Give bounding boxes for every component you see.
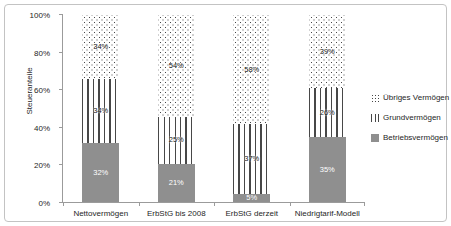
x-category-label: ErbStG derzeit <box>214 203 290 218</box>
legend-label: Übriges Vermögen <box>383 93 449 102</box>
y-axis-ticks: 0%20%40%60%80%100% <box>6 15 56 203</box>
legend: Übriges VermögenGrundvermögenBetriebsver… <box>371 93 449 142</box>
segment-value-label: 54% <box>158 62 195 70</box>
segment-value-label: 39% <box>309 48 346 56</box>
segment-dots: 58% <box>233 15 270 124</box>
x-tick-mark <box>63 203 64 206</box>
stacked-bar-3: 5%37%58% <box>233 15 270 203</box>
stacked-bar-2: 21%25%54% <box>158 15 195 203</box>
plot-area: 0%20%40%60%80%100% 32%34%34%21%25%54%5%3… <box>62 15 365 203</box>
x-tick-mark <box>290 203 291 206</box>
segment-vlines: 25% <box>158 117 195 164</box>
y-tick-label: 80% <box>34 48 50 57</box>
segment-value-label: 25% <box>158 136 195 144</box>
segment-dots: 34% <box>82 15 119 79</box>
x-category-label: Nettovermögen <box>63 203 139 218</box>
segment-dots: 54% <box>158 15 195 117</box>
segment-dots: 39% <box>309 15 346 88</box>
y-tick-mark <box>59 14 63 15</box>
segment-value-label: 34% <box>82 43 119 51</box>
y-tick-label: 40% <box>34 123 50 132</box>
y-tick-mark <box>59 127 63 128</box>
chart-frame: Steueranteile 0%20%40%60%80%100% 32%34%3… <box>4 4 447 222</box>
legend-swatch-dots-icon <box>371 94 379 102</box>
legend-swatch-vlines-icon <box>371 114 379 122</box>
x-tick-mark <box>139 203 140 206</box>
segment-solid: 21% <box>158 164 195 203</box>
y-tick-mark <box>59 164 63 165</box>
legend-item: Grundvermögen <box>371 113 449 122</box>
stacked-bar-4: 35%26%39% <box>309 15 346 203</box>
segment-vlines: 26% <box>309 88 346 137</box>
segment-vlines: 34% <box>82 79 119 143</box>
segment-value-label: 58% <box>233 66 270 74</box>
y-tick-mark <box>59 89 63 90</box>
stacked-bar-1: 32%34%34% <box>82 15 119 203</box>
y-tick-label: 20% <box>34 161 50 170</box>
segment-value-label: 32% <box>82 169 119 177</box>
bar-group: 32%34%34%21%25%54%5%37%58%35%26%39% <box>63 15 365 203</box>
segment-value-label: 21% <box>158 179 195 187</box>
x-tick-mark <box>364 203 365 206</box>
segment-value-label: 37% <box>233 155 270 163</box>
segment-solid: 35% <box>309 137 346 203</box>
legend-label: Betriebsvermögen <box>383 133 448 142</box>
segment-value-label: 26% <box>309 109 346 117</box>
y-tick-label: 60% <box>34 86 50 95</box>
legend-label: Grundvermögen <box>383 113 441 122</box>
x-category-label: Niedrigtarif-Modell <box>290 203 366 218</box>
y-tick-label: 100% <box>30 11 50 20</box>
legend-item: Übriges Vermögen <box>371 93 449 102</box>
segment-value-label: 34% <box>82 107 119 115</box>
segment-vlines: 37% <box>233 124 270 194</box>
segment-solid: 32% <box>82 143 119 203</box>
legend-item: Betriebsvermögen <box>371 133 449 142</box>
y-tick-label: 0% <box>38 199 50 208</box>
x-tick-mark <box>214 203 215 206</box>
x-category-label: ErbStG bis 2008 <box>139 203 215 218</box>
y-tick-mark <box>59 52 63 53</box>
segment-value-label: 35% <box>309 166 346 174</box>
legend-swatch-solid-icon <box>371 134 379 142</box>
